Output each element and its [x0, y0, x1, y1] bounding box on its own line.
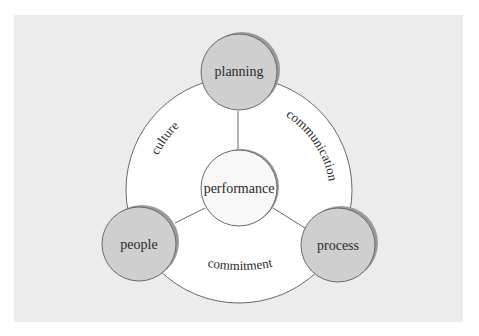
center-node-label: performance [204, 181, 275, 196]
node-planning-label: planning [215, 64, 264, 79]
node-process-label: process [317, 238, 359, 253]
performance-diagram: performance planning people process cult… [0, 0, 479, 336]
node-people-label: people [120, 237, 157, 252]
